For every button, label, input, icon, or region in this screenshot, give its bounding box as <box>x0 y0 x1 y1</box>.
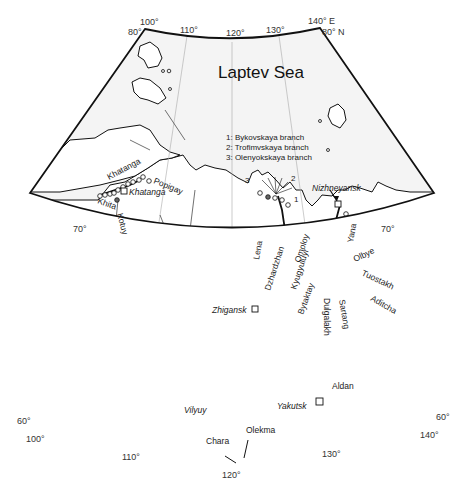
legend-item-3: 3: Olenyokskaya branch <box>226 153 312 162</box>
river-label-vilyuy: Vilyuy <box>184 405 207 415</box>
lat-tick-60-right: 60° <box>436 412 450 422</box>
olekma-arrow <box>244 440 248 458</box>
river-label-sartang: Sartang <box>337 299 352 330</box>
lon-tick-140-top: 140° E <box>308 16 335 26</box>
town-label-khatanga: Khatanga <box>129 187 166 197</box>
land-mass <box>0 155 462 481</box>
lat-tick-80-left: 80° <box>128 27 142 37</box>
river-label-olekma: Olekma <box>246 425 276 435</box>
legend-item-2: 2: Trofimvskaya branch <box>226 143 309 152</box>
river-label-olbye: Olbye <box>352 245 377 264</box>
branch-marker-2: 2 <box>291 174 296 183</box>
river-label-yana: Yana <box>345 222 358 243</box>
town-label-yakutsk: Yakutsk <box>277 401 307 411</box>
branch-marker-1: 1 <box>294 195 299 204</box>
town-nizhneyansk-marker <box>335 201 341 207</box>
lon-tick-100-bottom: 100° <box>26 434 45 444</box>
river-label-lena: Lena <box>251 240 264 261</box>
town-label-nizhneyansk: Nizhneyansk <box>312 183 361 193</box>
town-khatanga-marker <box>121 188 127 194</box>
branch-marker-3: 3 <box>245 176 250 185</box>
sea-label: Laptev Sea <box>218 63 305 82</box>
river-label-aditcha: Aditcha <box>369 293 399 316</box>
town-label-zhigansk: Zhigansk <box>211 305 247 315</box>
lon-tick-110-top: 110° <box>180 25 198 35</box>
lat-tick-70-left: 70° <box>73 224 87 234</box>
river-label-dulgalakh: Dulgalakh <box>322 298 332 336</box>
river-label-aldan: Aldan <box>332 381 354 391</box>
town-zhigansk-marker <box>252 306 258 312</box>
lat-tick-60-left: 60° <box>17 416 31 426</box>
chara-arrow <box>225 456 236 463</box>
town-yakutsk-marker <box>316 398 323 405</box>
river-label-dzhardzhan: Dzhardzhan <box>262 245 286 292</box>
river-label-chara: Chara <box>206 436 229 446</box>
lon-tick-100-top: 100° <box>140 17 159 27</box>
lon-tick-130-bottom: 130° <box>322 449 341 459</box>
lat-tick-80-right: 80° N <box>322 27 345 37</box>
lat-tick-70-right: 70° <box>381 224 395 234</box>
legend-item-1: 1: Bykovskaya branch <box>226 133 304 142</box>
map-canvas: 100° 110° 120° 130° 140° E 80° 80° N 70°… <box>0 0 462 481</box>
lon-tick-110-bottom: 110° <box>122 452 140 462</box>
lon-tick-120-top: 120° <box>226 28 245 38</box>
river-label-tuostakh: Tuostakh <box>360 268 396 292</box>
lon-tick-120-bottom: 120° <box>222 470 241 480</box>
lon-tick-140-bottom: 140° <box>420 430 439 440</box>
lon-tick-130-top: 130° <box>266 25 285 35</box>
